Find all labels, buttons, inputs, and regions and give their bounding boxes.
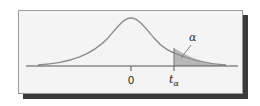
critical-label-subscript: α xyxy=(173,79,178,88)
center-label: 0 xyxy=(128,74,134,86)
density-curve xyxy=(38,18,226,65)
area-label-alpha: α xyxy=(189,31,196,44)
distribution-plot xyxy=(0,0,260,106)
critical-value-label: tα xyxy=(169,73,179,88)
